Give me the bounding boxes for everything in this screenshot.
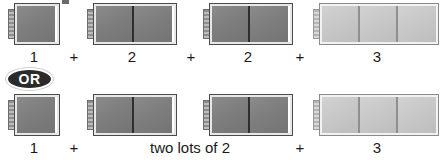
rod-unit-cube	[96, 97, 134, 133]
grouped-expression-row: 1 + two lots of 2 +	[0, 95, 433, 157]
rod-group-2a[interactable]: 2	[87, 4, 177, 44]
rod-group-1b[interactable]: 1	[8, 95, 60, 135]
rod-stack	[87, 4, 177, 44]
rod-group-3b[interactable]: 3	[313, 95, 441, 135]
rod-stack	[313, 95, 441, 135]
rod-unit-cube	[212, 6, 250, 42]
rod-group-label: 1	[8, 48, 60, 65]
rod-unit-cube	[398, 97, 436, 133]
rod-body-1-unit	[15, 95, 59, 135]
rod-group-1a[interactable]: 1	[8, 4, 60, 44]
rod-unit-cube	[96, 6, 134, 42]
rod-body-2-unit	[94, 95, 176, 135]
plus-operator-5: +	[292, 139, 308, 156]
rod-unit-cube	[322, 6, 360, 42]
plus-operator-4: +	[66, 139, 82, 156]
expanded-expression-row: 1 + 2 + 2 +	[0, 4, 433, 66]
rod-stack	[313, 4, 441, 44]
rod-unit-cube	[250, 6, 288, 42]
plus-operator-2: +	[183, 48, 199, 65]
rod-group-label: two lots of 2	[87, 139, 293, 156]
rod-body-2-unit	[210, 95, 292, 135]
rod-unit-cube	[360, 97, 398, 133]
rod-unit-cube	[250, 97, 288, 133]
rod-group-label: 3	[313, 48, 441, 65]
rod-unit-cube	[212, 97, 250, 133]
rod-body-1-unit	[15, 4, 59, 44]
plus-operator-1: +	[66, 48, 82, 65]
rod-stack	[8, 95, 60, 135]
rod-group-label: 2	[203, 48, 293, 65]
rod-group-label: 1	[8, 139, 60, 156]
rod-unit-cube	[17, 6, 55, 42]
rod-unit-cube	[322, 97, 360, 133]
rod-group-label: 2	[87, 48, 177, 65]
rod-group-two-lots-of-2[interactable]: two lots of 2	[87, 95, 293, 135]
rod-body-2-unit	[94, 4, 176, 44]
or-badge-label: OR	[19, 71, 41, 87]
rod-group-label: 3	[313, 139, 441, 156]
rod-unit-cube	[17, 97, 55, 133]
rod-unit-cube	[134, 97, 172, 133]
plus-operator-3: +	[292, 48, 308, 65]
or-badge: OR	[6, 68, 53, 90]
rod-group-3a[interactable]: 3	[313, 4, 441, 44]
rod-stack	[203, 4, 293, 44]
rod-stack	[8, 4, 60, 44]
rod-body-3-unit	[320, 95, 438, 135]
rod-unit-cube	[360, 6, 398, 42]
rod-unit-cube	[398, 6, 436, 42]
rod-body-3-unit	[320, 4, 438, 44]
rod-unit-cube	[134, 6, 172, 42]
rod-group-2b[interactable]: 2	[203, 4, 293, 44]
rod-stack	[87, 95, 293, 135]
rod-body-2-unit	[210, 4, 292, 44]
